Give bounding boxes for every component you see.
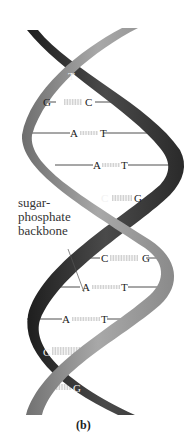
base-left: A — [82, 281, 90, 293]
base-right: G — [134, 192, 142, 204]
figure-caption: (b) — [76, 418, 91, 433]
base-left: C — [101, 192, 108, 204]
base-left: A — [62, 313, 70, 325]
backbone-label: sugar- phosphate backbone — [18, 196, 71, 238]
backbone-label-line3: backbone — [18, 224, 71, 238]
base-G-bottom: G — [73, 382, 81, 394]
base-right: G — [142, 252, 150, 264]
base-left: A — [93, 159, 101, 171]
base-G-lower: G — [43, 346, 51, 358]
base-left: C — [101, 252, 108, 264]
base-right: T — [121, 281, 128, 293]
base-right: T — [121, 159, 128, 171]
base-left: A — [70, 127, 78, 139]
base-right: C — [85, 96, 92, 108]
backbone-label-line2: phosphate — [18, 210, 71, 224]
base-right: T — [100, 127, 107, 139]
base-left: G — [43, 96, 51, 108]
backbone-label-line1: sugar- — [18, 196, 71, 210]
base-T-top: T — [68, 70, 75, 82]
base-right: T — [101, 313, 108, 325]
